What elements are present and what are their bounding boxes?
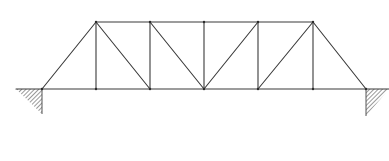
joint-node <box>95 21 97 23</box>
joint-node <box>312 88 314 90</box>
joint-node <box>41 88 43 90</box>
right-support <box>366 89 389 116</box>
diagonal-3 <box>204 22 258 89</box>
joint-node <box>203 21 205 23</box>
diagonal-1 <box>96 22 150 89</box>
joint-node <box>149 21 151 23</box>
diagonal-2 <box>150 22 204 89</box>
joint-node <box>365 88 367 90</box>
joint-node <box>257 21 259 23</box>
supports-group <box>16 89 389 116</box>
truss-diagram <box>0 0 389 161</box>
members-group <box>16 22 389 89</box>
end-post-right <box>313 22 366 89</box>
joint-node <box>149 88 151 90</box>
joint-node <box>312 21 314 23</box>
diagonal-4 <box>258 22 313 89</box>
joint-node <box>203 88 205 90</box>
left-support <box>16 89 42 114</box>
end-post-left <box>42 22 96 89</box>
joint-node <box>95 88 97 90</box>
joint-node <box>257 88 259 90</box>
